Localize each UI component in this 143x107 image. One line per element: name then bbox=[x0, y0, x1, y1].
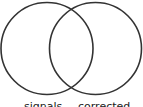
venn-diagram bbox=[0, 0, 143, 107]
right-circle bbox=[50, 3, 142, 95]
left-set-label: signals bbox=[24, 100, 62, 107]
right-set-label: corrected bbox=[78, 100, 130, 107]
left-circle bbox=[1, 3, 93, 95]
